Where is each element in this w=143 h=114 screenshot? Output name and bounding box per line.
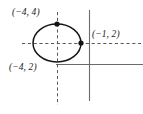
point-marker-top	[54, 21, 59, 26]
ellipse-coordinate-figure: (−4, 4) (−1, 2) (−4, 2)	[0, 0, 143, 114]
point-label-right: (−1, 2)	[92, 30, 120, 40]
point-label-bottom-left: (−4, 2)	[9, 63, 37, 73]
point-label-top-left: (−4, 4)	[12, 8, 40, 18]
point-marker-right	[78, 40, 83, 45]
